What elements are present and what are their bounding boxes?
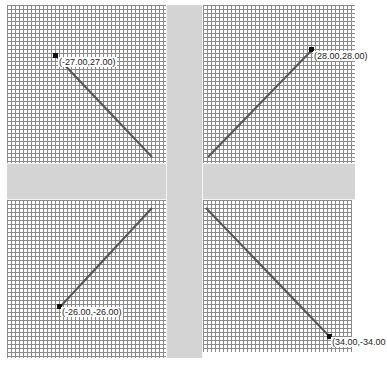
segment-bottom-right[interactable] <box>206 208 330 337</box>
coordinate-label-bottom-left: (-26.00,-26.00) <box>61 307 123 317</box>
coordinate-label-top-right: (28.00,28.00) <box>313 51 369 61</box>
segment-top-right[interactable] <box>208 50 312 157</box>
coordinate-label-top-left: (-27.00,27.00) <box>58 57 117 67</box>
segment-bottom-left[interactable] <box>60 208 152 307</box>
coordinate-label-bottom-right: (34.00,-34.00 <box>331 337 387 347</box>
segment-top-left[interactable] <box>56 56 152 157</box>
